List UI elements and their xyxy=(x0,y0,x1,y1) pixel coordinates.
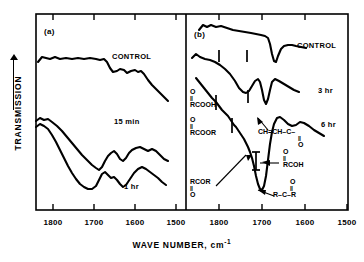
xtick-a-1600: 1600 xyxy=(126,218,145,227)
annotation-enone: CH=CH–C– || O xyxy=(258,128,303,148)
x-axis-label-exponent: -1 xyxy=(224,238,231,245)
xtick-a-1500: 1500 xyxy=(167,218,186,227)
xtick-b-1500: 1500 xyxy=(338,218,357,227)
annotation-rcooh: O || RCOOH xyxy=(190,88,216,108)
panel-a-tag: (a) xyxy=(44,27,55,36)
xtick-a-1800: 1800 xyxy=(44,218,63,227)
xtick-b-1700: 1700 xyxy=(253,218,272,227)
annotation-ketone-oxygen: O xyxy=(290,178,296,185)
annotation-rcoh-oxygen: O xyxy=(283,148,304,155)
annotation-rcor-formula: RCOR xyxy=(190,178,211,185)
xtick-b-1600: 1600 xyxy=(296,218,315,227)
annotation-enone-formula: CH=CH–C– xyxy=(258,128,303,135)
annotation-ketone-formula: R–C–R xyxy=(273,191,296,198)
x-axis-label-text: WAVE NUMBER, cm xyxy=(133,240,225,250)
trace-label-a-control: CONTROL xyxy=(112,52,151,61)
trace-panel-a-15min xyxy=(36,118,168,170)
x-axis-label: WAVE NUMBER, cm-1 xyxy=(0,238,364,250)
tick-marks-panel-a xyxy=(53,14,176,210)
annotation-rcoor-oxygen: O xyxy=(190,116,216,123)
annotation-rcoh-formula: RCOH xyxy=(283,161,304,168)
xtick-b-1800: 1800 xyxy=(210,218,229,227)
trace-label-a-15min: 15 min xyxy=(114,117,140,126)
trace-panel-a-1hr xyxy=(36,124,166,189)
annotation-rcoor-formula: RCOOR xyxy=(190,129,216,136)
annotation-rcoor: O || RCOOR xyxy=(190,116,216,136)
annotation-enone-oxygen: O xyxy=(298,141,303,148)
trace-label-a-1hr: 1 hr xyxy=(124,182,139,191)
panel-b-tag: (b) xyxy=(194,30,205,39)
annotation-rcor: RCOR || O xyxy=(190,178,211,198)
xtick-a-1700: 1700 xyxy=(85,218,104,227)
annotation-rcooh-formula: RCOOH xyxy=(190,101,216,108)
annotation-rcooh-oxygen: O xyxy=(190,88,216,95)
annotation-ketone: O || R–C–R xyxy=(273,178,296,198)
ir-spectra-figure: TRANSMISSION xyxy=(0,0,364,262)
trace-label-b-3hr: 3 hr xyxy=(318,86,333,95)
annotation-rcoh: O || RCOH xyxy=(283,148,304,168)
trace-panel-a-control xyxy=(38,57,168,101)
trace-panel-b-control xyxy=(199,25,306,62)
trace-label-b-control: CONTROL xyxy=(297,41,336,50)
trace-label-b-6hr: 6 hr xyxy=(321,120,336,129)
annotation-rcor-oxygen: O xyxy=(190,191,211,198)
